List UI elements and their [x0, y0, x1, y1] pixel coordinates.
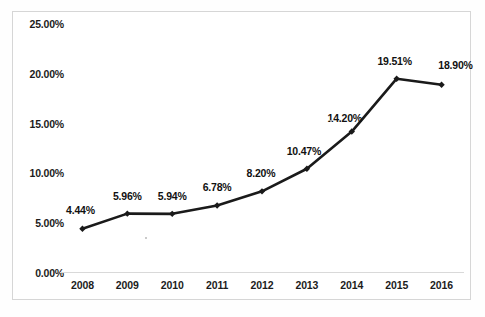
data-point-marker [124, 210, 130, 216]
y-axis-tick-label: 10.00% [30, 167, 64, 179]
data-point-label: 19.51% [377, 55, 411, 67]
x-axis-tick-labels: 200820092010201120122013201420152016 [60, 279, 464, 297]
data-point-label: 5.96% [113, 190, 142, 202]
chart-figure: 0.00%5.00%10.00%15.00%20.00%25.00% 20082… [0, 0, 485, 317]
data-point-label: 4.44% [66, 204, 95, 216]
data-point-label: 8.20% [247, 167, 276, 179]
x-axis-tick-label: 2008 [71, 279, 94, 291]
data-point-marker [79, 226, 85, 232]
x-axis-tick-label: 2016 [430, 279, 453, 291]
x-axis-tick-label: 2012 [251, 279, 274, 291]
x-axis-tick-label: 2014 [340, 279, 363, 291]
y-axis-tick-label: 20.00% [30, 68, 64, 80]
data-point-label: 18.90% [438, 59, 472, 71]
x-axis-tick-label: 2009 [116, 279, 139, 291]
y-axis-tick-labels: 0.00%5.00%10.00%15.00%20.00%25.00% [12, 24, 64, 273]
x-axis-tick-label: 2015 [385, 279, 408, 291]
y-axis-tick-label: 15.00% [30, 118, 64, 130]
scan-artifact [60, 175, 62, 177]
x-axis-tick-label: 2010 [161, 279, 184, 291]
data-point-label: 5.94% [158, 190, 187, 202]
series-line [82, 79, 441, 229]
x-axis-tick-label: 2013 [295, 279, 318, 291]
x-axis-tick-label: 2011 [206, 279, 228, 291]
data-point-label: 14.20% [328, 112, 362, 124]
data-point-marker [214, 202, 220, 208]
data-point-label: 6.78% [203, 181, 232, 193]
scan-artifact [145, 237, 147, 239]
data-point-label: 10.47% [287, 145, 321, 157]
data-point-marker [438, 82, 444, 88]
data-point-marker [169, 211, 175, 217]
scan-artifact [330, 120, 332, 122]
y-axis-tick-label: 25.00% [30, 18, 64, 30]
